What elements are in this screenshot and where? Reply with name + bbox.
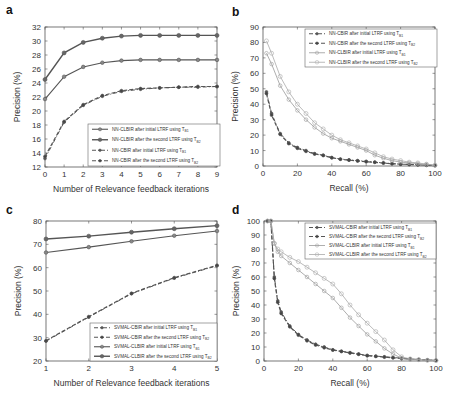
- legend-marker: [99, 149, 102, 152]
- data-point: [119, 34, 123, 38]
- data-point: [383, 356, 386, 359]
- y-tick-label: 100: [247, 217, 261, 226]
- x-tick-label: 2: [81, 170, 86, 179]
- data-point: [43, 78, 47, 82]
- legend: NN-CBIR after initial LTRF using TB1NN-C…: [305, 29, 437, 67]
- y-tick-label: 18: [32, 121, 41, 130]
- data-point: [81, 40, 85, 44]
- data-point: [177, 58, 181, 62]
- data-point: [62, 51, 66, 55]
- data-point: [340, 350, 343, 353]
- data-point: [158, 58, 162, 62]
- y-tick-label: 26: [32, 65, 41, 74]
- y-tick-label: 24: [32, 79, 41, 88]
- data-point: [81, 65, 85, 69]
- data-point: [177, 33, 181, 37]
- data-point: [87, 245, 91, 249]
- x-tick-label: 0: [262, 364, 267, 373]
- x-tick-label: 2: [87, 364, 92, 373]
- data-point: [172, 234, 176, 238]
- y-tick-label: 0: [255, 162, 260, 171]
- x-tick-label: 100: [428, 169, 442, 178]
- data-point: [215, 33, 219, 37]
- y-axis-label: Precision (%): [12, 72, 22, 123]
- legend-marker: [316, 32, 319, 35]
- y-tick-label: 16: [32, 135, 41, 144]
- legend-marker: [316, 226, 319, 229]
- data-point: [279, 133, 282, 136]
- x-axis-label: Recall (%): [330, 378, 369, 388]
- y-tick-label: 20: [251, 329, 260, 338]
- data-point: [130, 230, 134, 234]
- series-line: [45, 60, 217, 99]
- x-tick-label: 80: [397, 364, 406, 373]
- data-point: [120, 89, 123, 92]
- x-axis-label: Number of Relevance feedback iterations: [53, 184, 209, 194]
- data-point: [280, 312, 283, 315]
- data-point: [62, 75, 66, 79]
- data-point: [216, 264, 219, 267]
- data-point: [265, 92, 268, 95]
- x-tick-label: 5: [215, 364, 220, 373]
- data-point: [374, 355, 377, 358]
- data-point: [139, 87, 142, 90]
- y-tick-label: 30: [32, 37, 41, 46]
- x-tick-label: 1: [44, 364, 49, 373]
- data-point: [270, 114, 273, 117]
- legend: NN-CLBIR after initial LTRF using TB1NN-…: [88, 124, 220, 166]
- figure: a01234567891214161820222426283032Number …: [0, 0, 454, 401]
- y-tick-label: 70: [33, 240, 42, 249]
- x-tick-label: 4: [119, 170, 124, 179]
- y-tick-label: 40: [33, 310, 42, 319]
- data-point: [44, 251, 48, 255]
- x-tick-label: 7: [177, 170, 182, 179]
- x-axis-label: Number of Relevance feedback iterations: [54, 378, 210, 388]
- x-tick-label: 40: [327, 169, 336, 178]
- data-point: [196, 58, 200, 62]
- y-tick-label: 20: [32, 107, 41, 116]
- panel-d: d0204060801000102030405060708090100Recal…: [231, 203, 443, 388]
- data-point: [366, 354, 369, 357]
- legend-marker: [316, 42, 319, 45]
- x-axis-label: Recall (%): [329, 183, 368, 193]
- series-line: [266, 53, 435, 165]
- data-point: [288, 325, 291, 328]
- data-point: [349, 351, 352, 354]
- y-tick-label: 0: [256, 357, 261, 366]
- y-axis-label: Precision (%): [230, 71, 240, 122]
- x-tick-label: 60: [362, 169, 371, 178]
- data-point: [339, 158, 342, 161]
- y-tick-label: 20: [250, 131, 259, 140]
- y-tick-label: 30: [250, 116, 259, 125]
- data-point: [357, 353, 360, 356]
- y-tick-label: 10: [251, 343, 260, 352]
- panel-b: b0204060801000102030405060708090Recall (…: [230, 5, 442, 193]
- data-point: [305, 150, 308, 153]
- legend-marker: [98, 128, 101, 131]
- data-point: [382, 162, 385, 165]
- legend-marker: [101, 336, 104, 339]
- data-point: [330, 156, 333, 159]
- y-tick-label: 70: [251, 259, 260, 268]
- y-tick-label: 12: [32, 163, 41, 172]
- y-axis-label: Precision (%): [13, 266, 23, 317]
- legend-marker: [100, 354, 104, 358]
- x-tick-label: 0: [261, 169, 266, 178]
- panel-label: b: [232, 5, 239, 19]
- y-tick-label: 60: [33, 264, 42, 273]
- y-tick-label: 90: [251, 231, 260, 240]
- legend: SVMAL-CBIR after initial LTRF using TB1S…: [90, 323, 217, 361]
- data-point: [130, 240, 134, 244]
- x-tick-label: 4: [172, 364, 177, 373]
- data-point: [101, 94, 104, 97]
- x-tick-label: 60: [363, 364, 372, 373]
- data-point: [44, 237, 48, 241]
- series-line: [266, 93, 435, 165]
- data-point: [120, 59, 124, 63]
- data-point: [172, 227, 176, 231]
- x-tick-label: 20: [294, 364, 303, 373]
- data-point: [87, 234, 91, 238]
- y-tick-label: 10: [250, 147, 259, 156]
- x-tick-label: 3: [129, 364, 134, 373]
- data-point: [216, 85, 219, 88]
